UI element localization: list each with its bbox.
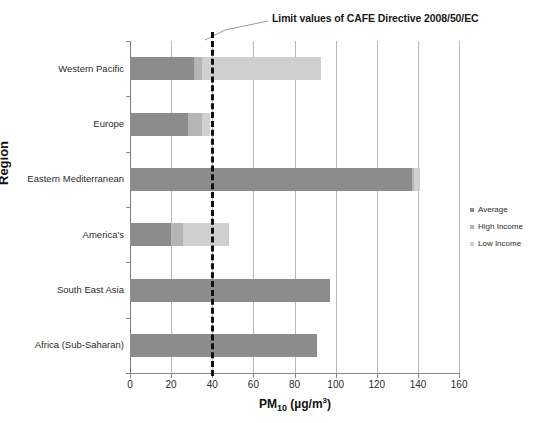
bar-average-1	[130, 113, 188, 136]
x-tick-label-160: 160	[451, 379, 468, 390]
legend-label: Low Income	[478, 239, 521, 248]
y-tick-1	[126, 96, 131, 97]
x-tick-60	[253, 373, 254, 378]
gridline-160	[459, 41, 460, 373]
x-tick-100	[336, 373, 337, 378]
x-tick-label-0: 0	[127, 379, 133, 390]
y-axis-title: Region	[0, 141, 11, 185]
x-tick-label-20: 20	[166, 379, 177, 390]
category-label-2: Eastern Mediterranean	[0, 173, 124, 184]
category-label-1: Europe	[0, 118, 124, 129]
x-tick-label-60: 60	[248, 379, 259, 390]
x-tick-label-120: 120	[368, 379, 385, 390]
legend-label: Average	[478, 205, 508, 214]
gridline-60	[253, 41, 254, 373]
y-tick-0	[126, 41, 131, 42]
x-axis-title-main: PM	[259, 397, 277, 411]
x-tick-120	[377, 373, 378, 378]
x-tick-label-140: 140	[410, 379, 427, 390]
gridline-80	[295, 41, 296, 373]
x-axis-title: PM10 (µg/m3)	[130, 396, 460, 413]
cafe-limit-reference-line	[211, 32, 214, 376]
category-label-0: Western Pacific	[0, 63, 124, 74]
y-tick-2	[126, 152, 131, 153]
chart-legend: AverageHigh IncomeLow Income	[470, 203, 523, 254]
legend-label: High Income	[478, 222, 523, 231]
y-tick-4	[126, 262, 131, 263]
x-tick-label-40: 40	[207, 379, 218, 390]
x-axis-title-units-close: )	[327, 397, 331, 411]
bar-average-4	[130, 279, 330, 302]
category-label-3: America's	[0, 229, 124, 240]
y-tick-6	[126, 373, 131, 374]
x-axis-title-sub: 10	[277, 403, 287, 413]
bar-average-0	[130, 57, 194, 80]
gridline-120	[377, 41, 378, 373]
bar-average-2	[130, 168, 412, 191]
x-tick-label-100: 100	[327, 379, 344, 390]
x-tick-140	[418, 373, 419, 378]
x-tick-label-80: 80	[289, 379, 300, 390]
bar-average-5	[130, 334, 317, 357]
limit-line-annotation: Limit values of CAFE Directive 2008/50/E…	[272, 12, 479, 24]
category-label-4: South East Asia	[0, 284, 124, 295]
x-axis-title-units-open: (µg/m	[287, 397, 323, 411]
gridline-140	[418, 41, 419, 373]
legend-swatch-icon	[470, 208, 474, 212]
bar-average-3	[130, 223, 171, 246]
x-tick-20	[171, 373, 172, 378]
gridline-20	[171, 41, 172, 373]
y-tick-5	[126, 318, 131, 319]
legend-item-low-income[interactable]: Low Income	[470, 237, 523, 250]
legend-item-average[interactable]: Average	[470, 203, 523, 216]
y-tick-3	[126, 207, 131, 208]
x-tick-80	[295, 373, 296, 378]
gridline-100	[336, 41, 337, 373]
pm10-bar-chart: Limit values of CAFE Directive 2008/50/E…	[0, 0, 541, 423]
category-label-5: Africa (Sub-Saharan)	[0, 339, 124, 350]
legend-swatch-icon	[470, 225, 474, 229]
legend-swatch-icon	[470, 242, 474, 246]
legend-item-high-income[interactable]: High Income	[470, 220, 523, 233]
x-tick-160	[459, 373, 460, 378]
